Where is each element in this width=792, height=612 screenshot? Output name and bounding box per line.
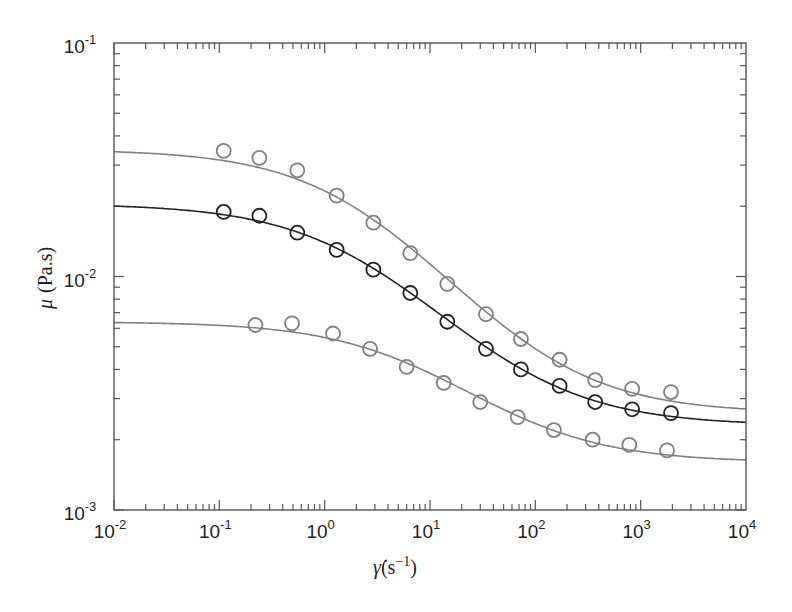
fit-curve-upper	[114, 152, 746, 409]
data-point-upper	[330, 189, 344, 203]
data-point-middle	[440, 315, 454, 329]
data-point-middle	[479, 342, 493, 356]
data-point-lower	[248, 318, 262, 332]
data-point-middle	[664, 406, 678, 420]
axis-ticks	[114, 43, 746, 510]
data-point-upper	[252, 151, 266, 165]
plot-frame	[114, 43, 746, 510]
data-point-upper	[664, 385, 678, 399]
viscosity-chart: 10-210-1100101102103104 10-310-210-1 γ̇(…	[0, 0, 792, 612]
data-point-lower	[285, 316, 299, 330]
y-tick-labels: 10-310-210-1	[64, 32, 97, 524]
y-axis-label: μ(Pa.s)	[34, 247, 57, 310]
data-point-lower	[473, 395, 487, 409]
data-point-lower	[326, 327, 340, 341]
data-point-lower	[511, 410, 525, 424]
y-tick-label: 10-3	[64, 499, 97, 524]
data-point-upper	[290, 163, 304, 177]
x-tick-label: 10-1	[199, 517, 232, 542]
data-point-upper	[625, 382, 639, 396]
x-tick-label: 10-2	[94, 517, 127, 542]
x-tick-label: 104	[728, 517, 756, 542]
fit-curves	[114, 152, 746, 460]
fit-curve-middle	[114, 206, 746, 422]
x-tick-label: 101	[412, 517, 440, 542]
data-markers	[217, 144, 678, 457]
data-point-lower	[586, 433, 600, 447]
y-tick-label: 10-2	[64, 266, 97, 291]
x-axis-label: γ̇(s−1)	[373, 554, 417, 579]
data-point-upper	[217, 144, 231, 158]
x-tick-label: 102	[517, 517, 545, 542]
x-tick-label: 100	[306, 517, 334, 542]
data-point-middle	[366, 263, 380, 277]
data-point-upper	[479, 307, 493, 321]
data-point-middle	[217, 205, 231, 219]
data-point-lower	[400, 360, 414, 374]
x-tick-label: 103	[622, 517, 650, 542]
y-tick-label: 10-1	[64, 32, 97, 57]
x-tick-labels: 10-210-1100101102103104	[94, 517, 757, 542]
fit-curve-lower	[114, 323, 746, 460]
